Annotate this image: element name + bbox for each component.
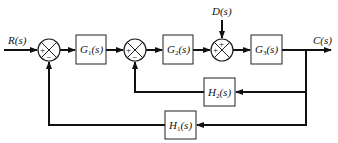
summing-junction-2: + − <box>124 39 146 62</box>
sign-plus: + <box>126 45 131 55</box>
svg-text:H1(s): H1(s) <box>168 119 192 133</box>
svg-text:G2(s): G2(s) <box>167 43 190 57</box>
sign-minus: − <box>46 52 51 62</box>
block-h1: H1(s) <box>165 111 196 139</box>
output-label: C(s) <box>313 34 332 47</box>
svg-text:G1(s): G1(s) <box>80 43 103 57</box>
sign-plus: + <box>40 45 45 55</box>
block-g3: G3(s) <box>251 35 282 64</box>
svg-text:G3(s): G3(s) <box>255 43 278 57</box>
sign-minus: − <box>132 52 137 62</box>
block-h2: H2(s) <box>204 78 235 106</box>
summing-junction-3: + + <box>211 39 233 61</box>
sign-plus: + <box>219 39 224 49</box>
block-g1: G1(s) <box>76 35 106 64</box>
sign-plus: + <box>213 45 218 55</box>
svg-text:H2(s): H2(s) <box>207 86 231 100</box>
summing-junction-1: + − <box>38 39 60 62</box>
disturbance-label: D(s) <box>211 5 232 18</box>
block-g2: G2(s) <box>163 35 193 64</box>
input-label: R(s) <box>7 34 27 47</box>
block-diagram: + − + − + + G1(s) G2(s) G3(s) H2(s) H1(s… <box>0 0 338 143</box>
